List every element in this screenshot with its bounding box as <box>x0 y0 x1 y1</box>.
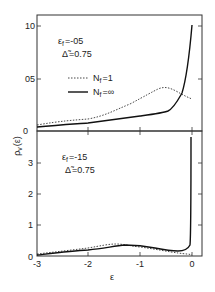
ytick-bot-3: 3 <box>28 158 33 168</box>
legend-nf1-label: Nf=1 <box>93 73 113 84</box>
top-delta-annotation: Δ̃=0.75 <box>62 49 92 59</box>
ytick-bot-1: 1 <box>28 220 33 230</box>
top-panel-frame <box>37 15 202 131</box>
ytick-top-05: 05 <box>25 74 35 84</box>
bottom-delta-annotation: Δ̃=0.75 <box>65 165 95 175</box>
ytick-top-0: 0 <box>23 126 28 136</box>
xtick-m3: -3 <box>33 259 41 269</box>
density-of-states-chart: 0 05 10 0 1 2 3 -3 -2 -1 0 ε ρv(ε) εf=-0… <box>0 0 215 292</box>
ytick-bot-2: 2 <box>28 189 33 199</box>
bottom-ticks <box>37 131 202 256</box>
ytick-top-10: 10 <box>25 21 35 31</box>
legend: Nf=1 Nf=∞ <box>68 73 114 98</box>
bottom-panel-frame <box>37 131 202 256</box>
xtick-0: 0 <box>189 259 194 269</box>
top-eps-annotation: εf=-05 <box>58 36 83 47</box>
x-axis-label: ε <box>110 272 114 282</box>
xtick-m1: -1 <box>136 259 144 269</box>
bottom-eps-annotation: εf=-15 <box>62 152 87 163</box>
bottom-solid-curve <box>37 137 191 255</box>
xtick-m2: -2 <box>84 259 92 269</box>
svg-text:ρv(ε): ρv(ε) <box>12 136 23 156</box>
y-axis-label: ρv(ε) <box>12 136 23 156</box>
legend-nfinf-label: Nf=∞ <box>93 87 114 98</box>
